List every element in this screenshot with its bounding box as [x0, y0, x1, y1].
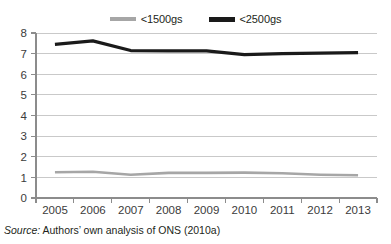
series-line-2500gs [55, 41, 358, 55]
y-tick-label-6: 6 [21, 69, 27, 81]
x-tick-label-2009: 2009 [194, 204, 220, 216]
y-axis-ticks [31, 33, 36, 198]
x-axis-tick-labels: 2005 2006 2007 2008 2009 2010 2011 2012 … [42, 204, 371, 216]
line-chart-svg: 8 7 6 5 4 3 2 1 0 2005 2006 2007 2008 20… [0, 0, 391, 244]
source-note-text: Authors’ own analysis of ONS (2010a) [40, 224, 220, 236]
x-tick-label-2005: 2005 [42, 204, 68, 216]
x-tick-label-2012: 2012 [307, 204, 333, 216]
x-tick-label-2008: 2008 [156, 204, 182, 216]
x-tick-label-2010: 2010 [232, 204, 258, 216]
x-axis-ticks [36, 198, 377, 203]
x-tick-label-2013: 2013 [345, 204, 371, 216]
y-tick-label-2: 2 [21, 151, 27, 163]
y-tick-label-3: 3 [21, 130, 27, 142]
y-tick-label-5: 5 [21, 89, 27, 101]
y-tick-label-8: 8 [21, 27, 27, 39]
series-line-1500gs [55, 172, 358, 176]
figure: <1500gs <2500gs [0, 0, 391, 244]
x-tick-label-2011: 2011 [270, 204, 295, 216]
plot-area: 8 7 6 5 4 3 2 1 0 2005 2006 2007 2008 20… [0, 0, 391, 244]
source-note-lead: Source: [4, 224, 40, 236]
source-note: Source: Authors’ own analysis of ONS (20… [4, 224, 220, 237]
y-axis-tick-labels: 8 7 6 5 4 3 2 1 0 [21, 27, 28, 204]
x-tick-label-2006: 2006 [80, 204, 106, 216]
y-tick-label-7: 7 [21, 48, 27, 60]
y-tick-label-0: 0 [21, 192, 27, 204]
y-tick-label-1: 1 [21, 172, 27, 184]
y-tick-label-4: 4 [21, 110, 28, 122]
x-tick-label-2007: 2007 [118, 204, 144, 216]
